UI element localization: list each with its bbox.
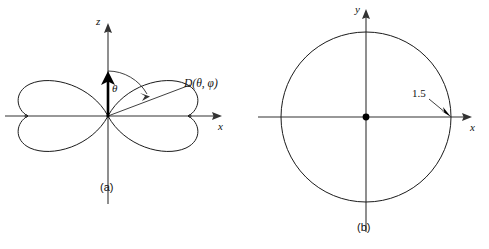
panel-b-x-axis-label: x <box>470 122 475 133</box>
figure-canvas: z x θ D(θ, φ) (a) y x 1.5 (b) <box>0 0 489 249</box>
panel-a-x-axis-label: x <box>218 121 223 132</box>
panel-b-group <box>258 9 472 232</box>
panel-b-y-axis-label: y <box>355 4 360 15</box>
panel-a-z-axis-label: z <box>96 16 100 27</box>
panel-a-group <box>5 23 222 204</box>
panel-a-directivity-label: D(θ, φ) <box>184 78 218 90</box>
panel-a-theta-label: θ <box>112 83 117 94</box>
panel-b-center-dot <box>363 114 370 121</box>
panel-a-caption: (a) <box>100 182 113 193</box>
panel-b-radius-leader <box>429 99 451 117</box>
panel-b-radius-label: 1.5 <box>412 88 426 99</box>
panel-a-x-axis <box>5 112 222 120</box>
panel-b-caption: (b) <box>357 222 370 233</box>
figure-vector-drawing <box>0 0 489 249</box>
panel-b-y-axis <box>362 9 370 232</box>
panel-a-origin-dot <box>106 114 109 117</box>
